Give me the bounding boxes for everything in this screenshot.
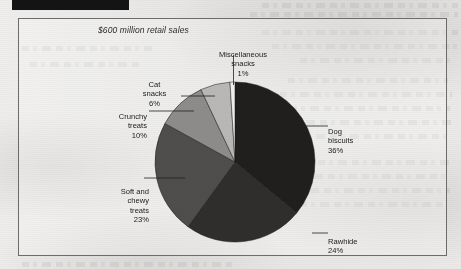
scanned-page: $600 million retail sales Miscellaneous … <box>0 0 461 269</box>
pie-label-crunchy-text: Crunchy treats <box>119 112 147 130</box>
black-header-bar <box>12 0 129 10</box>
pie-label-soft-and-chewy-treats: Soft and chewy treats 23% <box>93 178 149 233</box>
pie-label-rawhide-pct: 24% <box>328 246 386 255</box>
pie-slices <box>155 82 315 242</box>
pie-label-rawhide-text: Rawhide <box>328 237 358 246</box>
pie-label-crunchy-treats: Crunchy treats 10% <box>95 103 147 149</box>
pie-label-cat-text: Cat snacks <box>143 80 167 98</box>
pie-label-soft-pct: 23% <box>93 215 149 224</box>
pie-label-miscellaneous-snacks: Miscellaneous snacks 1% <box>212 41 274 87</box>
pie-label-rawhide: Rawhide 24% <box>328 228 386 265</box>
pie-label-soft-text: Soft and chewy treats <box>121 187 149 214</box>
pie-label-dog-biscuits: Dog biscuits 36% <box>328 118 386 164</box>
pie-label-dog-text: Dog biscuits <box>328 127 353 145</box>
pie-label-dog-pct: 36% <box>328 146 386 155</box>
bleedthrough-text-line <box>22 262 232 267</box>
pie-label-misc-text: Miscellaneous snacks <box>219 50 267 68</box>
pie-label-misc-pct: 1% <box>212 69 274 78</box>
bleedthrough-text-line <box>262 3 458 8</box>
bleedthrough-text-line <box>250 12 458 17</box>
pie-label-crunchy-pct: 10% <box>95 131 147 140</box>
